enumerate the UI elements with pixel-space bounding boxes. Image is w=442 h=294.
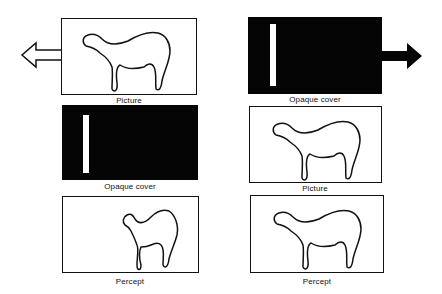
- compressed-camel-outline-icon: [63, 197, 200, 274]
- left-opaque-cover-panel: [62, 105, 198, 180]
- left-picture-label: Picture: [59, 96, 199, 105]
- camel-outline-icon: [250, 107, 383, 184]
- left-percept-panel: [62, 196, 199, 273]
- right-opaque-cover-panel: [248, 17, 382, 94]
- right-percept-label: Percept: [247, 277, 387, 286]
- left-opaque-cover-label: Opaque cover: [60, 182, 200, 191]
- slit-opening: [83, 115, 89, 173]
- right-arrow-icon: [381, 42, 423, 70]
- right-percept-panel: [250, 195, 384, 273]
- right-picture-label: Picture: [245, 184, 385, 193]
- right-picture-panel: [249, 106, 382, 183]
- left-arrow-icon: [20, 40, 62, 70]
- camel-outline-icon: [251, 196, 385, 274]
- left-percept-label: Percept: [60, 277, 200, 286]
- slit-opening: [270, 24, 276, 86]
- left-picture-panel: [61, 18, 197, 95]
- right-opaque-cover-label: Opaque cover: [245, 95, 385, 104]
- camel-outline-icon: [62, 19, 198, 96]
